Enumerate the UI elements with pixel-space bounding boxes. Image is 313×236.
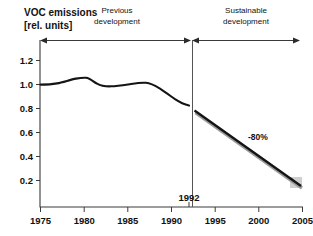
span-annotations [40, 38, 300, 44]
y-axis-title-line1: VOC emissions [24, 7, 98, 18]
x-tick-1995: 1995 [205, 215, 227, 226]
x-tick-2000: 2000 [248, 215, 269, 226]
voc-emissions-chart: VOC emissions [rel. units] Previous deve… [0, 0, 313, 236]
base-year-label-1992: 1992 [178, 192, 199, 203]
sustainable-development-arrow [192, 38, 300, 44]
y-tick-0.2: 0.2 [20, 175, 33, 186]
x-tick-1980: 1980 [74, 215, 95, 226]
y-tick-0.6: 0.6 [20, 127, 33, 138]
previous-development-label-line1: Previous [101, 6, 132, 15]
y-tick-0.8: 0.8 [20, 103, 33, 114]
x-tick-1975: 1975 [30, 215, 52, 226]
chart-figure: VOC emissions [rel. units] Previous deve… [0, 0, 313, 236]
historical-emissions-line [41, 78, 190, 106]
previous-development-label-line2: development [94, 17, 141, 26]
axes [36, 40, 303, 212]
reduction-annotation: -80% [248, 132, 268, 142]
y-tick-0.4: 0.4 [20, 151, 34, 162]
x-tick-2005: 2005 [292, 215, 313, 226]
y-tick-1.2: 1.2 [20, 55, 33, 66]
sustainable-projection-line [195, 111, 302, 187]
previous-development-arrow [40, 38, 191, 44]
sustainable-development-label-line1: Sustainable [225, 6, 267, 15]
y-axis-title-line2: [rel. units] [24, 20, 72, 31]
y-tick-1.0: 1.0 [20, 79, 33, 90]
x-tick-1985: 1985 [117, 215, 139, 226]
sustainable-development-label-line2: development [223, 17, 270, 26]
x-tick-1990: 1990 [161, 215, 182, 226]
